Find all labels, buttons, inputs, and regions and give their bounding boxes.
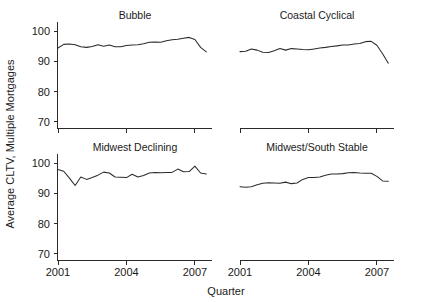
y-axis-tick-label: 100 (32, 157, 50, 169)
y-axis-tick-label: 80 (38, 86, 50, 98)
panel-title: Midwest Declining (93, 141, 178, 153)
x-axis-tick-label: 2007 (183, 266, 207, 278)
y-axis-tick-label: 70 (38, 116, 50, 128)
x-axis-tick-label: 2004 (114, 266, 138, 278)
y-axis-tick-label: 100 (32, 25, 50, 37)
small-multiples-line-chart: Bubble708090100Coastal CyclicalMidwest D… (0, 0, 425, 302)
y-axis-title: Average CLTV, Multiple Mortgages (4, 59, 16, 229)
chart-figure: Bubble708090100Coastal CyclicalMidwest D… (0, 0, 425, 302)
y-axis-tick-label: 90 (38, 55, 50, 67)
x-axis-tick-label: 2007 (365, 266, 389, 278)
x-axis-title: Quarter (207, 285, 245, 297)
x-axis-tick-label: 2004 (296, 266, 320, 278)
data-series-line (58, 37, 206, 52)
y-axis-tick-label: 70 (38, 248, 50, 260)
y-axis-tick-label: 80 (38, 218, 50, 230)
panel-title: Midwest/South Stable (266, 141, 368, 153)
x-axis-tick-label: 2001 (46, 266, 70, 278)
panel-title: Coastal Cyclical (280, 9, 355, 21)
data-series-line (240, 41, 388, 63)
y-axis-tick-label: 90 (38, 187, 50, 199)
x-axis-tick-label: 2001 (228, 266, 252, 278)
panel-title: Bubble (119, 9, 152, 21)
data-series-line (58, 166, 206, 185)
data-series-line (240, 172, 388, 187)
